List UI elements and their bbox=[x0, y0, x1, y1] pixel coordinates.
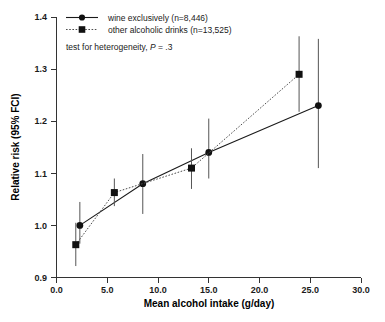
data-point-square bbox=[72, 241, 79, 248]
heterogeneity-note-prefix: test for heterogeneity, bbox=[66, 42, 150, 52]
series-line bbox=[80, 106, 319, 226]
relative-risk-alcohol-chart: 0.91.01.11.21.31.4 0.05.010.015.020.025.… bbox=[0, 0, 385, 322]
legend-label-other-alcoholic-drinks: other alcoholic drinks (n=13,525) bbox=[108, 25, 232, 35]
x-tick-label: 20.0 bbox=[251, 285, 269, 295]
chart-canvas: 0.91.01.11.21.31.4 0.05.010.015.020.025.… bbox=[0, 0, 385, 322]
x-axis-title: Mean alcohol intake (g/day) bbox=[144, 298, 275, 309]
legend-item-wine-exclusively: wine exclusively (n=8,446) bbox=[66, 13, 208, 23]
legend-marker-circle bbox=[79, 14, 85, 20]
series-other-alcoholic-drinks bbox=[72, 36, 302, 266]
legend-marker-square bbox=[79, 26, 86, 33]
x-tick-label: 15.0 bbox=[200, 285, 218, 295]
x-tick-label: 25.0 bbox=[301, 285, 319, 295]
data-point-square bbox=[111, 189, 118, 196]
legend: wine exclusively (n=8,446) other alcohol… bbox=[66, 13, 232, 53]
heterogeneity-note-suffix: = .3 bbox=[156, 42, 173, 52]
y-tick-label: 1.3 bbox=[34, 64, 47, 74]
data-point-circle bbox=[76, 222, 83, 229]
x-tick-label: 5.0 bbox=[101, 285, 114, 295]
data-point-square bbox=[296, 71, 303, 78]
legend-label-wine-exclusively: wine exclusively (n=8,446) bbox=[107, 13, 208, 23]
y-axis-title: Relative risk (95% FCI) bbox=[10, 93, 21, 200]
x-axis-ticks: 0.05.010.015.020.025.030.0 bbox=[50, 278, 370, 296]
data-point-circle bbox=[205, 149, 212, 156]
data-series-layer bbox=[72, 36, 321, 266]
y-axis-ticks: 0.91.01.11.21.31.4 bbox=[34, 12, 56, 283]
y-tick-label: 1.0 bbox=[34, 221, 47, 231]
x-tick-label: 10.0 bbox=[149, 285, 167, 295]
data-point-circle bbox=[315, 102, 322, 109]
x-tick-label: 0.0 bbox=[50, 285, 63, 295]
data-point-square bbox=[188, 165, 195, 172]
x-tick-label: 30.0 bbox=[352, 285, 370, 295]
y-tick-label: 1.2 bbox=[34, 116, 47, 126]
y-tick-label: 1.1 bbox=[34, 169, 47, 179]
data-point-circle bbox=[139, 180, 146, 187]
y-tick-label: 1.4 bbox=[34, 12, 47, 22]
heterogeneity-note: test for heterogeneity, P = .3 bbox=[66, 42, 173, 52]
legend-item-other-alcoholic-drinks: other alcoholic drinks (n=13,525) bbox=[66, 25, 232, 35]
y-tick-label: 0.9 bbox=[34, 273, 47, 283]
series-line bbox=[76, 74, 299, 244]
series-wine-exclusively bbox=[76, 39, 321, 244]
